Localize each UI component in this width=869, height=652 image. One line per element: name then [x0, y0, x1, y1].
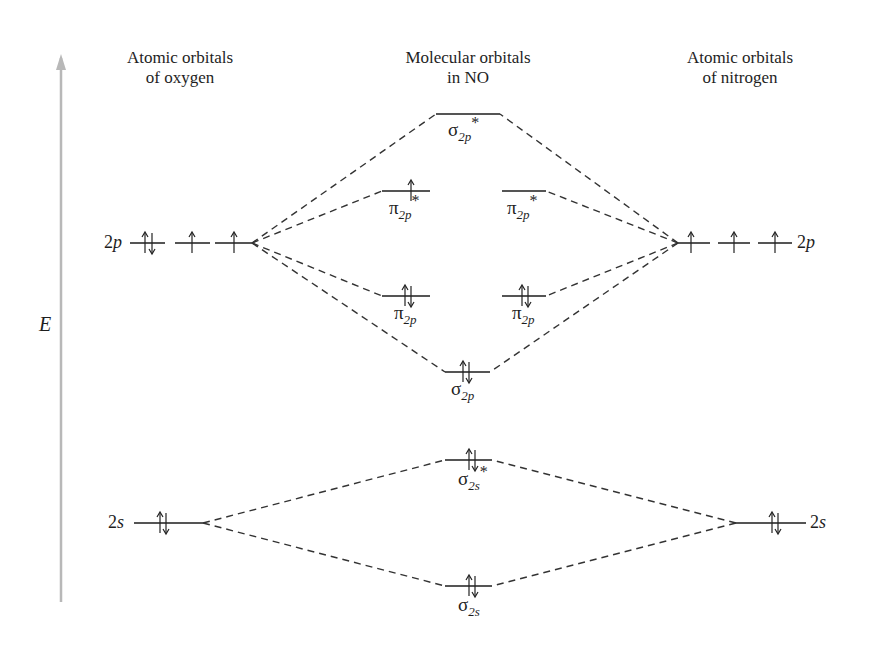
header-nitrogen: Atomic orbitals of nitrogen [665, 48, 815, 88]
header-oxygen-line2: of oxygen [105, 68, 255, 88]
correlation-lines [203, 114, 736, 586]
pi2p-a-label: π2p [394, 302, 417, 324]
header-oxygen-line1: Atomic orbitals [105, 48, 255, 68]
sigma2p-star-label: σ2p* [448, 119, 479, 141]
header-nitrogen-line2: of nitrogen [665, 68, 815, 88]
sigma2p-label: σ2p [451, 378, 474, 400]
energy-axis [56, 54, 66, 602]
header-oxygen: Atomic orbitals of oxygen [105, 48, 255, 88]
header-molecular-line2: in NO [388, 68, 548, 88]
pi2p-star-a-label: π2p* [389, 197, 420, 219]
header-nitrogen-line1: Atomic orbitals [665, 48, 815, 68]
axis-arrow-icon [56, 54, 66, 70]
oxygen-2p-label: 2p [104, 232, 122, 253]
mo-diagram: Atomic orbitals of oxygen Molecular orbi… [0, 0, 869, 652]
sigma2s-label: σ2s [458, 594, 480, 616]
mo-levels [382, 114, 546, 586]
energy-axis-label: E [39, 313, 51, 336]
pi2p-b-label: π2p [512, 302, 535, 324]
header-molecular: Molecular orbitals in NO [388, 48, 548, 88]
oxygen-2s-label: 2s [108, 512, 124, 533]
diagram-lines [0, 0, 869, 652]
nitrogen-2s-label: 2s [810, 512, 826, 533]
pi2p-star-b-label: π2p* [507, 197, 538, 219]
header-molecular-line1: Molecular orbitals [388, 48, 548, 68]
nitrogen-2p-label: 2p [797, 232, 815, 253]
sigma2s-star-label: σ2s* [458, 468, 488, 490]
